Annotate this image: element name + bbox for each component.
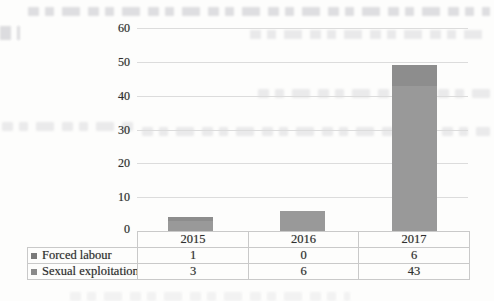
scan-bleed-artifact <box>70 292 350 301</box>
column-header-2015: 2015 <box>138 232 249 248</box>
cell-sexual-2015: 3 <box>138 264 249 280</box>
bar-segment-sexual-exploitation-2016 <box>280 211 325 231</box>
cell-forced-2017: 6 <box>359 248 470 264</box>
scan-bleed-artifact <box>142 127 490 136</box>
bar-segment-forced-labour-2015 <box>168 217 213 220</box>
cell-forced-2016: 0 <box>249 248 359 264</box>
table-row: Forced labour 1 0 6 <box>28 248 470 264</box>
cell-forced-2015: 1 <box>138 248 249 264</box>
bar-segment-sexual-exploitation-2015 <box>168 221 213 231</box>
cell-sexual-2017: 43 <box>359 264 470 280</box>
legend-item-sexual-exploitation: Sexual exploitation <box>28 264 138 280</box>
gridline <box>137 28 468 29</box>
sexual-exploitation-legend-swatch-icon <box>31 269 37 275</box>
bar-segment-sexual-exploitation-2017 <box>392 86 437 231</box>
table-corner-cell <box>28 232 138 248</box>
y-axis-tick-label: 50 <box>62 54 130 69</box>
table-header-row: 2015 2016 2017 <box>28 232 470 248</box>
gridline <box>137 62 468 63</box>
bar-segment-forced-labour-2017 <box>392 65 437 85</box>
scanned-chart-page: 0102030405060 2015 2016 2017 Forced labo… <box>0 0 494 301</box>
scan-bleed-artifact <box>28 7 490 16</box>
scan-bleed-artifact <box>0 26 20 40</box>
column-header-2017: 2017 <box>359 232 470 248</box>
cell-sexual-2016: 6 <box>249 264 359 280</box>
legend-item-forced-labour: Forced labour <box>28 248 138 264</box>
y-axis-tick-label: 60 <box>62 21 130 36</box>
table-row: Sexual exploitation 3 6 43 <box>28 264 470 280</box>
legend-label: Sexual exploitation <box>42 264 138 278</box>
chart-data-table: 2015 2016 2017 Forced labour 1 0 6 Sexua… <box>27 231 470 280</box>
y-axis-tick-label: 10 <box>62 190 130 205</box>
y-axis-tick-label: 20 <box>62 156 130 171</box>
column-header-2016: 2016 <box>249 232 359 248</box>
y-axis-tick-label: 40 <box>62 88 130 103</box>
y-axis-tick-label: 30 <box>62 122 130 137</box>
forced-labour-legend-swatch-icon <box>31 253 37 259</box>
legend-label: Forced labour <box>42 248 112 262</box>
scan-bleed-artifact <box>250 30 490 39</box>
